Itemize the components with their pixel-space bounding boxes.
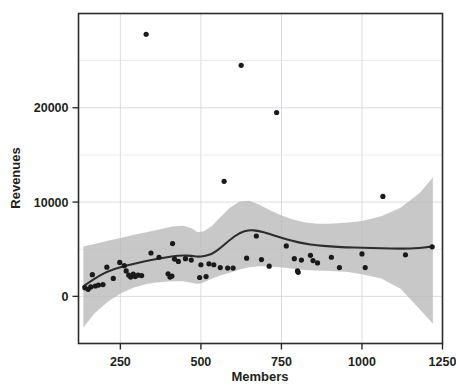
y-tick-label: 10000	[34, 196, 69, 210]
x-tick-label: 750	[271, 355, 292, 369]
y-tick-label: 0	[62, 290, 69, 304]
x-tick-label: 250	[110, 355, 131, 369]
scatter-plot-figure: 25050075010001250 01000020000 Members Re…	[0, 0, 456, 387]
figure-background	[0, 0, 456, 387]
y-tick-label: 20000	[34, 101, 69, 115]
x-axis-title: Members	[231, 369, 288, 384]
y-axis-title: Revenues	[8, 147, 23, 208]
x-tick-label: 500	[190, 355, 211, 369]
x-tick-label: 1000	[348, 355, 376, 369]
x-tick-label: 1250	[429, 355, 456, 369]
